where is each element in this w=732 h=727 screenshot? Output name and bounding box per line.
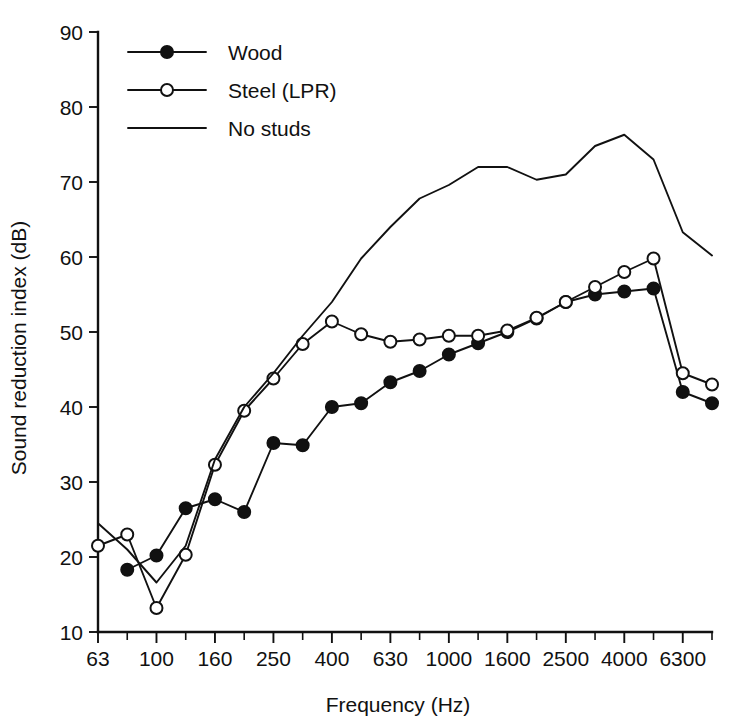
- chart-container: 102030405060708090 631001602504006301000…: [0, 0, 732, 727]
- chart-legend: WoodSteel (LPR)No studs: [128, 41, 337, 140]
- legend-marker-open: [161, 84, 173, 96]
- data-point-steel-lpr: [121, 529, 133, 541]
- data-point-steel-lpr: [706, 379, 718, 391]
- data-point-wood: [238, 506, 250, 518]
- data-point-wood: [209, 493, 221, 505]
- y-tick-label: 60: [60, 246, 83, 269]
- x-tick-label: 1000: [425, 647, 472, 670]
- data-point-steel-lpr: [443, 330, 455, 342]
- data-point-wood: [443, 348, 455, 360]
- data-point-wood: [180, 502, 192, 514]
- x-tick-label: 2500: [542, 647, 589, 670]
- line-chart: 102030405060708090 631001602504006301000…: [0, 0, 732, 727]
- data-point-steel-lpr: [648, 253, 660, 265]
- data-point-steel-lpr: [618, 266, 630, 278]
- data-point-steel-lpr: [150, 602, 162, 614]
- data-point-steel-lpr: [92, 540, 104, 552]
- data-point-steel-lpr: [414, 334, 426, 346]
- data-point-wood: [121, 564, 133, 576]
- data-point-steel-lpr: [472, 330, 484, 342]
- data-point-wood: [267, 437, 279, 449]
- data-point-steel-lpr: [384, 336, 396, 348]
- x-axis-title: Frequency (Hz): [326, 693, 471, 716]
- x-tick-label: 160: [197, 647, 232, 670]
- x-axis: 6310016025040063010001600250040006300: [86, 632, 712, 670]
- x-tick-label: 100: [139, 647, 174, 670]
- legend-label-steel-lpr: Steel (LPR): [228, 79, 337, 102]
- data-point-wood: [618, 285, 630, 297]
- data-point-wood: [706, 397, 718, 409]
- y-tick-label: 50: [60, 321, 83, 344]
- data-point-wood: [296, 439, 308, 451]
- data-point-steel-lpr: [560, 296, 572, 308]
- data-point-wood: [355, 397, 367, 409]
- data-point-wood: [384, 376, 396, 388]
- x-tick-label: 63: [86, 647, 109, 670]
- legend-label-wood: Wood: [228, 41, 282, 64]
- x-tick-label: 6300: [659, 647, 706, 670]
- x-tick-label: 1600: [484, 647, 531, 670]
- data-point-wood: [647, 282, 659, 294]
- y-tick-label: 20: [60, 546, 83, 569]
- data-point-steel-lpr: [355, 328, 367, 340]
- y-tick-label: 90: [60, 21, 83, 44]
- x-tick-label: 630: [373, 647, 408, 670]
- data-point-steel-lpr: [531, 312, 543, 324]
- data-point-wood: [413, 365, 425, 377]
- y-tick-label: 70: [60, 171, 83, 194]
- data-point-steel-lpr: [677, 367, 689, 379]
- x-tick-label: 400: [314, 647, 349, 670]
- data-point-steel-lpr: [589, 281, 601, 293]
- legend-label-no-studs: No studs: [228, 117, 311, 140]
- y-tick-label: 10: [60, 621, 83, 644]
- series-layer: [92, 135, 718, 614]
- y-axis: 102030405060708090: [60, 21, 98, 644]
- series-line-wood: [127, 289, 712, 570]
- data-point-wood: [326, 401, 338, 413]
- data-point-wood: [150, 549, 162, 561]
- series-line-no-studs: [98, 135, 712, 583]
- y-tick-label: 80: [60, 96, 83, 119]
- y-tick-label: 30: [60, 471, 83, 494]
- data-point-steel-lpr: [326, 316, 338, 328]
- data-point-steel-lpr: [501, 325, 513, 337]
- legend-marker-filled: [161, 46, 173, 58]
- data-point-wood: [677, 386, 689, 398]
- y-axis-title: Sound reduction index (dB): [7, 221, 30, 476]
- y-tick-label: 40: [60, 396, 83, 419]
- x-tick-label: 250: [256, 647, 291, 670]
- x-tick-label: 4000: [601, 647, 648, 670]
